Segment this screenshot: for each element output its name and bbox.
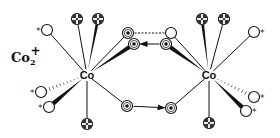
atom-cross-icon: [197, 14, 208, 25]
ion-label: Co2+: [11, 44, 41, 67]
cobalt-center-label: Co: [202, 69, 217, 81]
hashed-bond: [235, 87, 236, 89]
wedge-bond: [52, 79, 83, 105]
atom-cross-icon: [82, 119, 93, 130]
atom-cross-icon: [204, 118, 215, 129]
star-marker: *: [260, 28, 265, 38]
hashed-bond: [245, 91, 247, 94]
hashed-bond: [231, 85, 232, 87]
cobalt-center-label: Co: [80, 69, 95, 81]
atom-open-icon: [166, 28, 177, 39]
hashed-bond: [49, 87, 50, 91]
wedge-bond: [88, 24, 98, 69]
hashed-bond: [53, 86, 54, 89]
single-bond: [211, 24, 223, 69]
hashed-bond: [224, 82, 225, 84]
atom-cross-icon: [72, 14, 83, 25]
atom-open-icon: *: [249, 27, 266, 38]
single-bond: [213, 36, 250, 71]
wedge-bond: [201, 24, 208, 69]
wedge-bond: [169, 45, 204, 71]
atom-cross-icon: [219, 14, 230, 25]
wedge-bond: [92, 45, 131, 72]
atom-open-icon: *: [249, 92, 266, 103]
ion-charge: +: [31, 44, 41, 58]
hashed-bond: [71, 80, 72, 82]
atom-open-icon: *: [30, 87, 47, 98]
atom-ring-icon: [123, 28, 134, 39]
single-bond: [78, 24, 86, 69]
hashed-bond: [228, 83, 229, 85]
hashed-bond: [241, 90, 243, 93]
hashed-bond: [63, 82, 64, 84]
atom-open-icon: *: [38, 102, 55, 113]
atom-open-icon: *: [241, 106, 258, 117]
hashed-bond: [221, 80, 222, 81]
atom-cross-icon: [93, 14, 104, 25]
atom-ring-icon: [122, 101, 133, 112]
metal-layer: CoCo: [80, 69, 217, 81]
single-bond: [92, 79, 123, 103]
dinuclear-cobalt-diagram: ****** CoCo Co2+: [0, 0, 280, 138]
single-bond: [175, 79, 204, 104]
atom-open-icon: *: [36, 25, 53, 36]
ion-subscript: 2: [30, 57, 36, 67]
atom-ring-icon: [166, 103, 177, 114]
star-marker: *: [38, 103, 43, 113]
ion-element: Co: [11, 50, 30, 65]
arrow-link: [133, 106, 164, 107]
hashed-bond: [67, 81, 68, 83]
atom-ring-icon: [161, 39, 172, 50]
hashed-bond: [60, 84, 61, 87]
star-marker: *: [260, 93, 265, 103]
hashed-bond: [238, 88, 239, 91]
bond-layer: [45, 24, 250, 118]
atom-ring-icon: [129, 39, 140, 50]
star-marker: *: [30, 88, 35, 98]
star-marker: *: [252, 107, 257, 117]
hashed-bond: [56, 85, 57, 88]
star-marker: *: [36, 26, 41, 36]
single-bond: [51, 34, 83, 70]
atom-layer: ******: [30, 14, 265, 130]
